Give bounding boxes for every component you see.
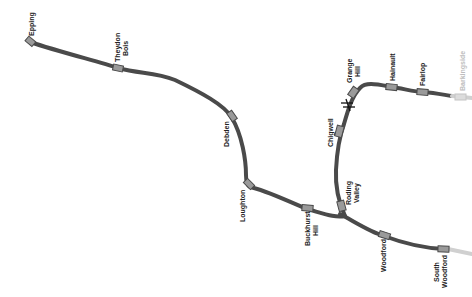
label-south-woodford-line2: Woodford <box>441 255 448 288</box>
label-theydon-bois-line1: Theydon <box>114 33 122 62</box>
station-hainault[interactable] <box>386 83 398 90</box>
label-loughton: Loughton <box>239 190 247 222</box>
station-debden[interactable] <box>227 110 238 122</box>
label-epping: Epping <box>28 12 36 36</box>
label-fairlop: Fairlop <box>419 63 427 86</box>
label-hainault: Hainault <box>389 53 396 81</box>
station-fairlop[interactable] <box>417 89 428 96</box>
station-woodford[interactable] <box>378 231 390 240</box>
label-woodford: Woodford <box>380 239 387 272</box>
station-theydon-bois[interactable] <box>112 64 123 72</box>
label-grange-hill-line2: Hill <box>354 66 361 77</box>
label-roding-valley-line2: Valley <box>353 183 361 203</box>
station-barkingside[interactable] <box>455 94 466 100</box>
epping-branch-track <box>30 42 345 217</box>
label-roding-valley-line1: Roding <box>345 181 353 205</box>
faded-track-south <box>448 249 472 254</box>
tube-map: Epping Theydon Bois Debden Loughton Buck… <box>0 0 472 297</box>
label-buckhurst-hill-line2: Hill <box>312 225 319 236</box>
label-grange-hill-line1: Grange <box>346 58 354 83</box>
label-barkingside: Barkingside <box>459 51 467 91</box>
label-buckhurst-hill-line1: Buckhurst <box>304 211 311 246</box>
station-south-woodford[interactable] <box>438 246 449 252</box>
label-debden: Debden <box>223 121 230 147</box>
label-chigwell: Chigwell <box>327 118 335 147</box>
label-theydon-bois-line2: Bois <box>122 41 129 56</box>
main-trunk-track <box>340 214 444 249</box>
label-south-woodford-line1: South <box>433 262 440 282</box>
station-chigwell[interactable] <box>335 125 345 137</box>
station-buckhurst-hill[interactable] <box>302 205 313 212</box>
